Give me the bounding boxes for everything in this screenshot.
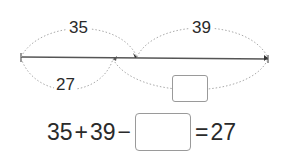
eq-a: 35 <box>47 119 73 146</box>
label-35: 35 <box>67 19 90 37</box>
equation-answer-box[interactable] <box>135 113 191 151</box>
equation: 35 + 39 − = 27 <box>0 112 283 152</box>
label-27: 27 <box>54 76 77 94</box>
eq-equals: = <box>195 119 208 146</box>
eq-result: 27 <box>210 119 236 146</box>
label-39: 39 <box>190 19 213 37</box>
eq-plus: + <box>75 119 88 146</box>
eq-minus: − <box>118 119 131 146</box>
diagram-answer-box[interactable] <box>172 75 208 102</box>
eq-b: 39 <box>90 119 116 146</box>
